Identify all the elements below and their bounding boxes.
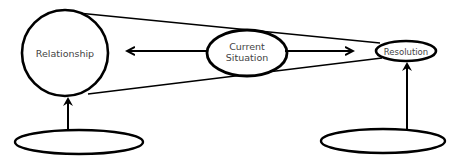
current-situation-node[interactable]: Current Situation bbox=[207, 30, 287, 76]
relationship-label: Relationship bbox=[36, 48, 94, 59]
bottom-left-node[interactable] bbox=[15, 130, 143, 154]
current-situation-label-line2: Situation bbox=[226, 52, 268, 63]
current-situation-label-line1: Current bbox=[229, 41, 265, 52]
diagram-canvas: Relationship Current Situation Resolutio… bbox=[0, 0, 459, 165]
resolution-label: Resolution bbox=[384, 47, 428, 57]
bottom-right-node[interactable] bbox=[321, 129, 445, 153]
resolution-node[interactable]: Resolution bbox=[376, 41, 436, 61]
relationship-node[interactable]: Relationship bbox=[22, 10, 108, 96]
